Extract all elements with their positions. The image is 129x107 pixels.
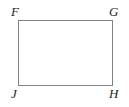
vertex-label-g: G	[109, 5, 118, 18]
vertex-label-j: J	[11, 87, 17, 100]
geometry-figure-rectangle-fghj: F G H J	[0, 0, 129, 107]
vertex-label-h: H	[109, 87, 118, 100]
vertex-label-f: F	[11, 5, 19, 18]
rectangle-outline-path	[19, 21, 113, 86]
